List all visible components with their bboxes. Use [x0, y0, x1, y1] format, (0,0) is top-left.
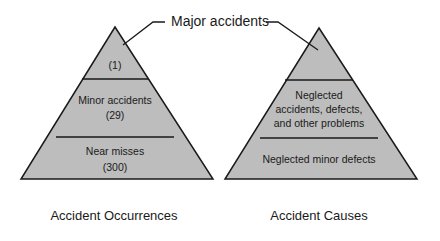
- left-tier-1-text: (1): [109, 59, 122, 71]
- right-tier-3-text: Neglected minor defects: [262, 153, 375, 165]
- right-pyramid: Neglected accidents, defects, and other …: [225, 28, 417, 223]
- right-tier-2-line-1: Neglected: [295, 89, 342, 101]
- left-pyramid: (1) Minor accidents (29) Near misses (30…: [21, 27, 213, 223]
- callout-label: Major accidents: [171, 13, 269, 29]
- major-accidents-callout: Major accidents: [123, 13, 318, 50]
- left-pyramid-caption: Accident Occurrences: [50, 208, 178, 223]
- callout-leader-left: [123, 22, 165, 45]
- left-tier-2-line-2: (29): [106, 109, 125, 121]
- right-pyramid-caption: Accident Causes: [270, 208, 368, 223]
- left-tier-3-line-2: (300): [103, 161, 128, 173]
- right-tier-2-line-2: accidents, defects,: [276, 103, 363, 115]
- right-tier-2-line-3: and other problems: [274, 117, 364, 129]
- pyramid-diagram: (1) Minor accidents (29) Near misses (30…: [0, 0, 440, 241]
- left-tier-3-line-1: Near misses: [86, 145, 144, 157]
- left-tier-2-line-1: Minor accidents: [78, 94, 152, 106]
